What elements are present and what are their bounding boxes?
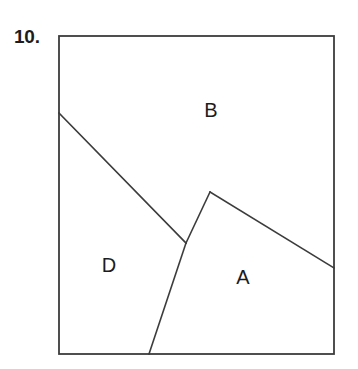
region-label-a: A (236, 266, 250, 288)
region-label-d: D (102, 254, 116, 276)
region-label-b: B (204, 99, 217, 121)
figure-container: 10. B D A (0, 0, 358, 369)
geometry-diagram: B D A (0, 0, 358, 369)
outer-square-border (59, 36, 334, 354)
